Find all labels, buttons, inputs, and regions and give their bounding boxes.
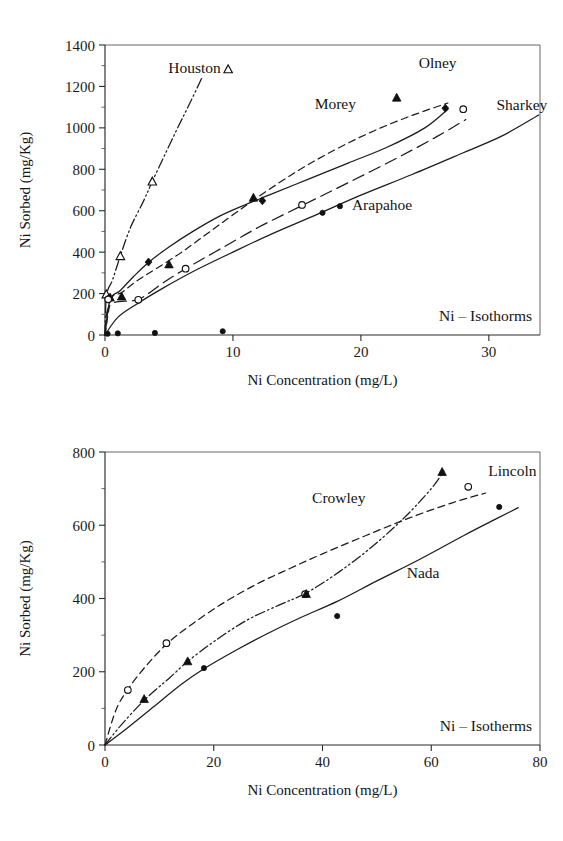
chart-annotation: Ni – Isotherms <box>440 717 532 734</box>
x-tick-label: 60 <box>424 754 439 770</box>
series-labels: HoustonMoreyOlneySharkeyArapahoe <box>168 54 547 213</box>
curve-olney <box>105 109 448 335</box>
datapoint-sharkey <box>135 296 142 303</box>
y-tick-label: 1200 <box>65 79 95 95</box>
datapoint-sharkey <box>299 202 306 209</box>
series-label-olney: Olney <box>419 54 457 71</box>
y-tick-label: 200 <box>73 664 96 680</box>
x-tick-label: 40 <box>315 754 330 770</box>
series-labels: LincolnCrowleyNada <box>312 462 537 582</box>
y-axis-ticks: 0200400600800 <box>73 445 106 754</box>
datapoint-houston <box>116 252 124 260</box>
datapoint-morey <box>392 93 400 101</box>
label-marker-houston <box>224 65 232 73</box>
series-label-morey: Morey <box>315 95 357 112</box>
y-tick-label: 800 <box>73 162 96 178</box>
datapoint-arapahoe <box>320 210 325 215</box>
series-label-nada: Nada <box>407 564 440 581</box>
y-tick-label: 0 <box>88 328 96 344</box>
y-tick-label: 1000 <box>65 120 95 136</box>
chart-svg-bottom: 0204060800200400600800LincolnCrowleyNada… <box>0 420 563 841</box>
curve-nada <box>105 508 518 745</box>
y-tick-label: 400 <box>73 245 96 261</box>
series-label-arapahoe: Arapahoe <box>352 196 412 213</box>
y-axis-ticks: 0200400600800100012001400 <box>65 38 105 344</box>
datapoint-houston <box>148 177 156 185</box>
datapoint-arapahoe <box>220 329 225 334</box>
y-tick-label: 1400 <box>65 38 95 54</box>
datapoint-crowley <box>438 468 446 476</box>
datapoint-arapahoe <box>152 330 157 335</box>
chart-annotation: Ni – Isothorms <box>439 307 532 324</box>
y-tick-label: 600 <box>73 203 96 219</box>
y-tick-label: 800 <box>73 445 96 461</box>
datapoint-lincoln <box>163 640 170 647</box>
x-axis-title: Ni Concentration (mg/L) <box>248 782 398 799</box>
datapoint-sharkey <box>105 296 112 303</box>
datapoint-lincoln <box>465 483 472 490</box>
x-tick-label: 30 <box>481 344 496 360</box>
x-tick-label: 0 <box>101 344 109 360</box>
x-tick-label: 20 <box>206 754 221 770</box>
datapoint-sharkey <box>182 265 189 272</box>
x-tick-label: 0 <box>101 754 109 770</box>
series-curves <box>105 77 539 335</box>
series-label-lincoln: Lincoln <box>488 462 536 479</box>
datapoint-arapahoe <box>105 331 110 336</box>
figure-page: 01020300200400600800100012001400HoustonM… <box>0 0 563 841</box>
datapoint-lincoln <box>125 687 132 694</box>
datapoint-arapahoe <box>115 331 120 336</box>
chart-svg-top: 01020300200400600800100012001400HoustonM… <box>0 0 563 420</box>
curve-lincoln <box>105 493 486 745</box>
datapoint-nada <box>497 504 502 509</box>
series-label-sharkey: Sharkey <box>497 96 548 113</box>
series-curves <box>105 471 518 745</box>
plot-frame <box>105 45 540 335</box>
x-tick-label: 10 <box>225 344 240 360</box>
series-markers <box>102 93 466 336</box>
datapoint-nada <box>335 613 340 618</box>
y-tick-label: 0 <box>88 738 96 754</box>
datapoint-olney <box>442 104 449 112</box>
datapoint-morey <box>165 260 173 268</box>
curve-morey <box>105 103 448 335</box>
datapoint-crowley <box>140 695 148 703</box>
datapoint-crowley <box>183 657 191 665</box>
y-tick-label: 600 <box>73 518 96 534</box>
y-axis-title: Ni Sorbed (mg/Kg) <box>17 540 34 657</box>
chart-panel-top: 01020300200400600800100012001400HoustonM… <box>0 0 563 420</box>
datapoint-olney <box>259 197 266 205</box>
label-marker-arapahoe <box>337 204 342 209</box>
y-tick-label: 400 <box>73 591 96 607</box>
x-tick-label: 80 <box>533 754 548 770</box>
curve-crowley <box>105 471 444 745</box>
chart-panel-bottom: 0204060800200400600800LincolnCrowleyNada… <box>0 420 563 841</box>
datapoint-sharkey <box>460 106 467 113</box>
y-axis-title: Ni Sorbed (mg/Kg) <box>17 132 34 249</box>
x-axis-title: Ni Concentration (mg/L) <box>248 372 398 389</box>
x-tick-label: 20 <box>353 344 368 360</box>
curve-sharkey <box>105 120 466 335</box>
series-label-houston: Houston <box>168 59 221 76</box>
x-axis-ticks: 020406080 <box>101 745 547 770</box>
y-tick-label: 200 <box>73 286 96 302</box>
datapoint-nada <box>201 665 206 670</box>
curve-arapahoe <box>105 115 539 335</box>
series-label-crowley: Crowley <box>312 489 366 506</box>
datapoint-morey <box>249 193 257 201</box>
x-axis-ticks: 0102030 <box>101 335 496 360</box>
